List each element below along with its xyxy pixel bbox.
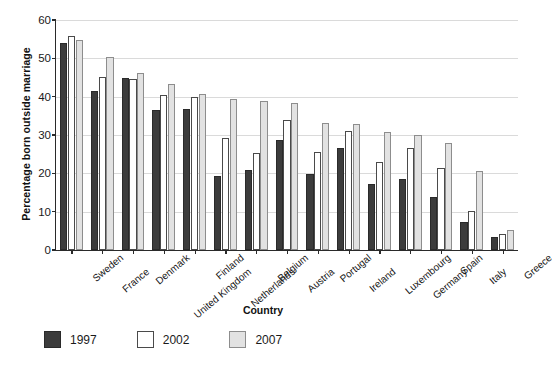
legend-item-1997[interactable]: 1997 (44, 331, 97, 348)
bar (91, 91, 98, 250)
bar (283, 120, 290, 250)
bar (430, 197, 437, 250)
legend-label: 2007 (255, 333, 282, 347)
x-axis-label-portugal: Portugal (338, 252, 374, 284)
bar (491, 237, 498, 250)
y-axis-tick-label: 40 (38, 91, 51, 103)
y-axis-title: Percentage born outside marriage (20, 14, 32, 254)
bar (306, 174, 313, 250)
bar (152, 110, 159, 250)
x-axis-label-spain: Spain (458, 252, 485, 277)
legend-swatch-icon (229, 331, 246, 348)
bar (291, 103, 298, 250)
y-axis-tick-label: 0 (45, 244, 51, 256)
bar-group (152, 20, 175, 250)
bar (76, 40, 83, 250)
y-axis-tick-label: 20 (38, 167, 51, 179)
bar (476, 171, 483, 250)
legend-swatch-icon (137, 331, 154, 348)
bar-group (245, 20, 268, 250)
bar (345, 131, 352, 250)
bar (214, 176, 221, 250)
legend-item-2007[interactable]: 2007 (229, 331, 282, 348)
bar-group (337, 20, 360, 250)
x-axis-label-greece: Greece (521, 252, 553, 282)
bar-group (60, 20, 83, 250)
x-axis-category-labels: SwedenFranceDenmarkUnited KingdomFinland… (55, 252, 525, 312)
bar (168, 84, 175, 250)
bar (191, 97, 198, 250)
legend-item-2002[interactable]: 2002 (137, 331, 190, 348)
bar (183, 109, 190, 250)
bar (129, 79, 136, 250)
bar (122, 78, 129, 250)
bar (160, 95, 167, 250)
bar (399, 179, 406, 250)
x-axis-title: Country (0, 304, 526, 316)
bar-group (430, 20, 453, 250)
y-axis-tick-label: 50 (38, 52, 51, 64)
bar (468, 211, 475, 250)
x-axis-label-belgium: Belgium (276, 252, 311, 284)
bar-group (368, 20, 391, 250)
x-axis-label-sweden: Sweden (91, 252, 126, 284)
bars-layer (56, 20, 518, 250)
bar (68, 36, 75, 250)
bar (260, 101, 267, 251)
bar (499, 234, 506, 250)
bar (507, 230, 514, 250)
legend-label: 1997 (70, 333, 97, 347)
bar (437, 168, 444, 250)
bar (376, 162, 383, 250)
bar-group (491, 20, 514, 250)
y-axis-tick-label: 30 (38, 129, 51, 141)
bar (414, 135, 421, 250)
bar (337, 148, 344, 250)
bar-group (460, 20, 483, 250)
legend-swatch-icon (44, 331, 61, 348)
bar (99, 77, 106, 250)
x-axis-label-ireland: Ireland (367, 266, 397, 294)
bar-group (399, 20, 422, 250)
bar (384, 132, 391, 250)
bar (106, 57, 113, 250)
bar (137, 73, 144, 250)
bar (368, 184, 375, 250)
bar (460, 222, 467, 250)
bar (445, 143, 452, 250)
bar (314, 152, 321, 250)
x-axis-label-denmark: Denmark (153, 252, 191, 287)
y-axis-tick-label: 10 (38, 206, 51, 218)
bar (276, 140, 283, 250)
bar-group (276, 20, 299, 250)
chart-legend: 199720022007 (44, 331, 282, 348)
bar-group (122, 20, 145, 250)
bar-group (214, 20, 237, 250)
y-axis-tick-label: 60 (38, 14, 51, 26)
bar (199, 94, 206, 250)
bar-group (91, 20, 114, 250)
x-axis-label-italy: Italy (487, 266, 508, 286)
bar (322, 123, 329, 250)
bar (245, 170, 252, 251)
bar (60, 43, 67, 250)
x-axis-label-france: France (120, 266, 151, 294)
plot-area: 0102030405060 (55, 20, 518, 251)
bar (353, 124, 360, 250)
bar (222, 138, 229, 250)
x-axis-label-austria: Austria (305, 266, 336, 294)
bar (253, 153, 260, 250)
bar (407, 148, 414, 250)
bar-group (183, 20, 206, 250)
bar (230, 99, 237, 250)
bar-group (306, 20, 329, 250)
legend-label: 2002 (163, 333, 190, 347)
